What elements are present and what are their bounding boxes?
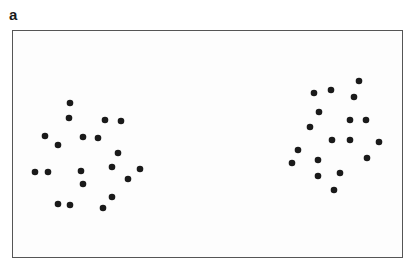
data-point — [102, 117, 109, 124]
data-point — [328, 87, 335, 94]
data-point — [100, 205, 107, 212]
data-point — [363, 117, 370, 124]
data-point — [32, 169, 39, 176]
data-point — [45, 169, 52, 176]
data-point — [118, 118, 125, 125]
data-point — [316, 109, 323, 116]
data-point — [55, 201, 62, 208]
data-point — [80, 181, 87, 188]
data-point — [364, 155, 371, 162]
data-point — [115, 150, 122, 157]
data-point — [109, 194, 116, 201]
data-point — [80, 134, 87, 141]
data-point — [55, 142, 62, 149]
data-point — [95, 135, 102, 142]
data-point — [351, 94, 358, 101]
data-point — [347, 137, 354, 144]
data-point — [329, 137, 336, 144]
data-point — [337, 170, 344, 177]
data-point — [307, 124, 314, 131]
data-point — [356, 78, 363, 85]
data-point — [315, 157, 322, 164]
data-point — [109, 164, 116, 171]
data-point — [311, 90, 318, 97]
scatter-plot — [0, 0, 409, 264]
data-point — [78, 168, 85, 175]
data-point — [289, 160, 296, 167]
data-point — [295, 147, 302, 154]
data-point — [376, 139, 383, 146]
data-point — [347, 117, 354, 124]
data-point — [315, 173, 322, 180]
data-point — [42, 133, 49, 140]
data-point — [67, 202, 74, 209]
data-point — [66, 115, 73, 122]
data-point — [67, 100, 74, 107]
left-cluster — [32, 100, 144, 212]
data-point — [137, 166, 144, 173]
data-point — [125, 176, 132, 183]
right-cluster — [289, 78, 383, 194]
data-point — [331, 187, 338, 194]
